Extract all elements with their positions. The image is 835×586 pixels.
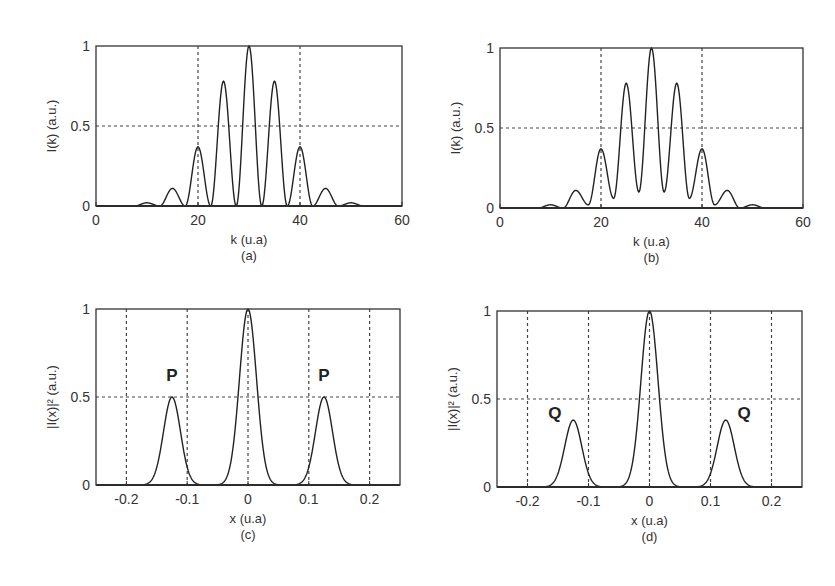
y-tick-label: 0 xyxy=(483,479,491,495)
y-tick-label: 0.5 xyxy=(475,120,495,136)
y-axis-label: I(k) (a.u.) xyxy=(44,100,59,153)
x-tick-label: 20 xyxy=(190,212,206,228)
y-tick-label: 1 xyxy=(486,40,494,56)
x-tick-label: 60 xyxy=(394,212,410,228)
y-axis-label: I(k) (a.u.) xyxy=(448,102,463,155)
panel-caption: (c) xyxy=(240,527,255,542)
y-axis-label: |I(x)|² (a.u.) xyxy=(44,365,59,429)
y-tick-label: 0.5 xyxy=(71,389,91,405)
y-tick-label: 1 xyxy=(483,303,491,319)
y-tick-label: 0.5 xyxy=(71,118,91,134)
chart-c: 00.51-0.2-0.100.10.2x (u.a)(c)|I(x)|² (a… xyxy=(44,301,400,542)
x-axis-label: k (u.a) xyxy=(633,234,670,249)
peak-annotation: Q xyxy=(737,404,750,423)
x-tick-label: 0.2 xyxy=(360,491,380,507)
peak-annotation: Q xyxy=(548,404,561,423)
x-tick-label: 60 xyxy=(795,214,811,230)
x-tick-label: 40 xyxy=(292,212,308,228)
x-tick-label: 0.1 xyxy=(299,491,319,507)
x-axis-label: x (u.a) xyxy=(631,513,668,528)
x-tick-label: 0.2 xyxy=(762,493,782,509)
y-tick-label: 0.5 xyxy=(472,391,492,407)
x-tick-label: 20 xyxy=(593,214,609,230)
x-tick-label: 0 xyxy=(244,491,252,507)
x-axis-label: x (u.a) xyxy=(230,511,267,526)
x-tick-label: -0.2 xyxy=(515,493,539,509)
panel-caption: (a) xyxy=(241,248,257,263)
x-tick-label: -0.2 xyxy=(114,491,138,507)
x-tick-label: 0.1 xyxy=(701,493,721,509)
peak-annotation: P xyxy=(318,366,329,385)
x-axis-label: k (u.a) xyxy=(231,232,268,247)
y-tick-label: 0 xyxy=(82,477,90,493)
x-tick-label: 40 xyxy=(694,214,710,230)
chart-panel-a: 00.510204060k (u.a)(a)I(k) (a.u.)00.5102… xyxy=(0,0,835,586)
x-tick-label: -0.1 xyxy=(175,491,199,507)
panel-caption: (b) xyxy=(644,250,660,265)
y-tick-label: 1 xyxy=(82,38,90,54)
peak-annotation: P xyxy=(166,366,177,385)
y-axis-label: |I(x)|² (a.u.) xyxy=(445,367,460,431)
panel-caption: (d) xyxy=(642,529,658,544)
x-tick-label: 0 xyxy=(646,493,654,509)
chart-d: 00.51-0.2-0.100.10.2x (u.a)(d)|I(x)|² (a… xyxy=(445,303,802,544)
chart-b: 00.510204060k (u.a)(b)I(k) (a.u.) xyxy=(448,40,811,265)
x-tick-label: 0 xyxy=(496,214,504,230)
chart-a: 00.510204060k (u.a)(a)I(k) (a.u.) xyxy=(44,38,410,263)
y-tick-label: 1 xyxy=(82,301,90,317)
x-tick-label: 0 xyxy=(92,212,100,228)
y-tick-label: 0 xyxy=(486,200,494,216)
y-tick-label: 0 xyxy=(82,198,90,214)
x-tick-label: -0.1 xyxy=(576,493,600,509)
